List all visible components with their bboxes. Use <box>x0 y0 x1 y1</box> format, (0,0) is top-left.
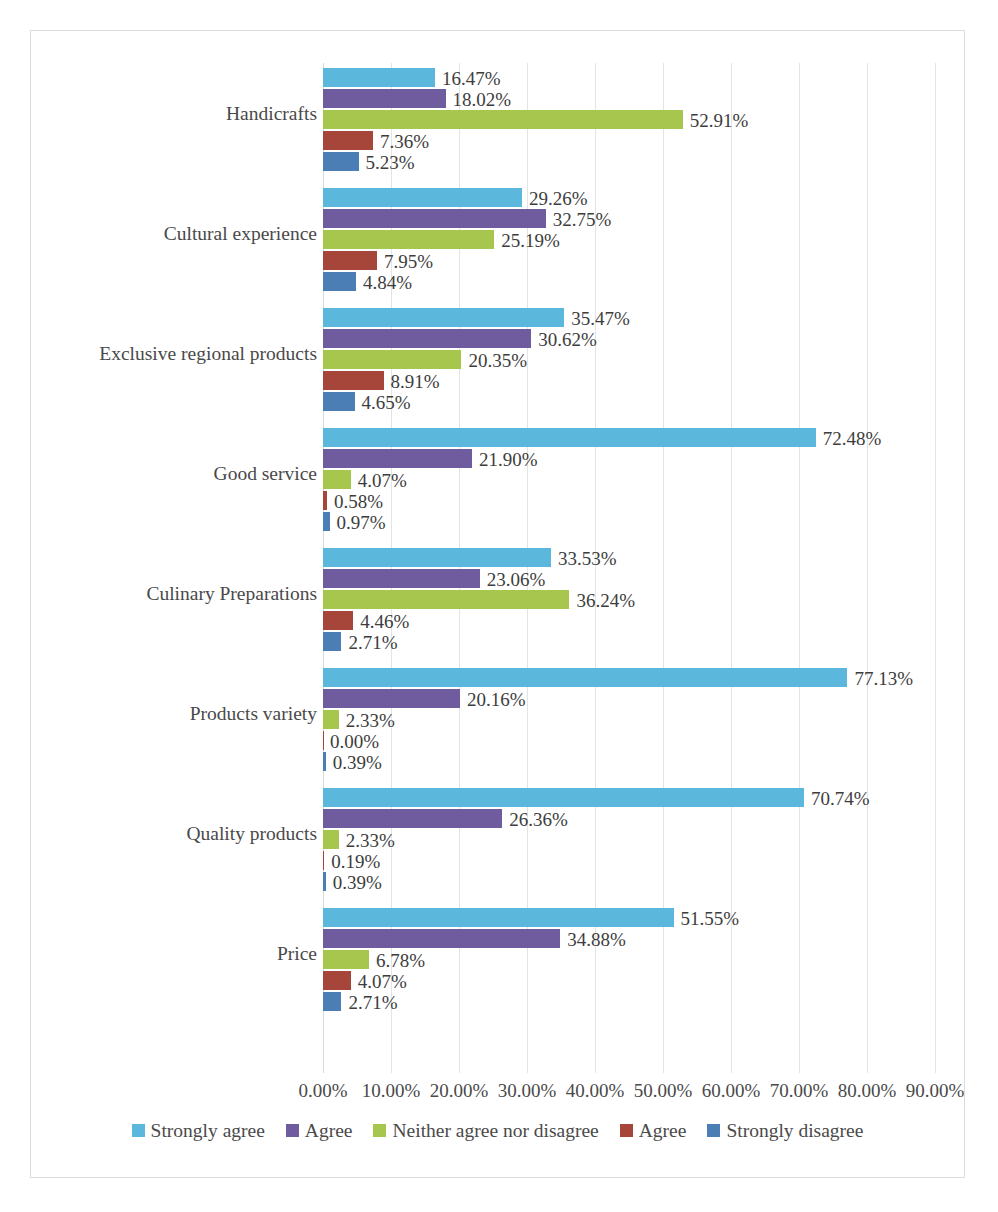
bar-row: 2.33% <box>323 830 935 849</box>
bar[interactable] <box>323 689 460 708</box>
legend-swatch-icon <box>132 1124 145 1137</box>
bar[interactable] <box>323 731 324 750</box>
legend-swatch-icon <box>707 1124 720 1137</box>
legend-label: Neither agree nor disagree <box>392 1121 598 1141</box>
bar[interactable] <box>323 929 560 948</box>
bar-row: 0.97% <box>323 512 935 531</box>
bar[interactable] <box>323 188 522 207</box>
x-tick-label: 80.00% <box>838 1081 897 1100</box>
bar[interactable] <box>323 851 324 870</box>
bar[interactable] <box>323 491 327 510</box>
x-tick-label: 30.00% <box>498 1081 557 1100</box>
bar-value-label: 0.97% <box>337 512 386 531</box>
bar-row: 4.84% <box>323 272 935 291</box>
bar[interactable] <box>323 89 446 108</box>
bar[interactable] <box>323 752 326 771</box>
bar[interactable] <box>323 830 339 849</box>
bar-value-label: 4.65% <box>362 392 411 411</box>
bar-row: 4.46% <box>323 611 935 630</box>
bar-value-label: 0.39% <box>333 872 382 891</box>
bar[interactable] <box>323 611 353 630</box>
bar-group: Products variety77.13%20.16%2.33%0.00%0.… <box>323 668 935 773</box>
bar-value-label: 0.58% <box>334 491 383 510</box>
bar[interactable] <box>323 308 564 327</box>
bar[interactable] <box>323 668 847 687</box>
bar[interactable] <box>323 569 480 588</box>
bar[interactable] <box>323 350 461 369</box>
bar[interactable] <box>323 908 674 927</box>
category-label: Handicrafts <box>47 104 317 124</box>
bar[interactable] <box>323 950 369 969</box>
bar-row: 20.35% <box>323 350 935 369</box>
bar-value-label: 70.74% <box>811 788 870 807</box>
bar-value-label: 5.23% <box>366 152 415 171</box>
bar-value-label: 26.36% <box>509 809 568 828</box>
bar-row: 35.47% <box>323 308 935 327</box>
x-tick-label: 10.00% <box>362 1081 421 1100</box>
bar[interactable] <box>323 209 546 228</box>
bar-value-label: 4.46% <box>360 611 409 630</box>
bar[interactable] <box>323 470 351 489</box>
bar[interactable] <box>323 872 326 891</box>
legend-item[interactable]: Strongly agree <box>132 1121 265 1141</box>
bar-row: 0.39% <box>323 752 935 771</box>
bar[interactable] <box>323 512 330 531</box>
bar-value-label: 2.33% <box>346 710 395 729</box>
category-label: Products variety <box>47 704 317 724</box>
bar-row: 16.47% <box>323 68 935 87</box>
legend-item[interactable]: Neither agree nor disagree <box>373 1121 598 1141</box>
bar[interactable] <box>323 251 377 270</box>
bar[interactable] <box>323 548 551 567</box>
bar[interactable] <box>323 131 373 150</box>
legend-item[interactable]: Strongly disagree <box>707 1121 863 1141</box>
bar[interactable] <box>323 809 502 828</box>
legend-item[interactable]: Agree <box>620 1121 687 1141</box>
bar-row: 4.07% <box>323 971 935 990</box>
x-tick-label: 50.00% <box>634 1081 693 1100</box>
bar[interactable] <box>323 449 472 468</box>
bar-row: 51.55% <box>323 908 935 927</box>
bar-value-label: 7.36% <box>380 131 429 150</box>
bar-value-label: 33.53% <box>558 548 617 567</box>
bar[interactable] <box>323 152 359 171</box>
bar-value-label: 2.33% <box>346 830 395 849</box>
bar-value-label: 20.16% <box>467 689 526 708</box>
bar-value-label: 23.06% <box>487 569 546 588</box>
x-tick-label: 0.00% <box>298 1081 347 1100</box>
bar[interactable] <box>323 272 356 291</box>
bar-row: 77.13% <box>323 668 935 687</box>
bar-row: 70.74% <box>323 788 935 807</box>
x-tick-label: 40.00% <box>566 1081 625 1100</box>
legend-swatch-icon <box>373 1124 386 1137</box>
bar-value-label: 4.84% <box>363 272 412 291</box>
bar[interactable] <box>323 971 351 990</box>
bar-value-label: 35.47% <box>571 308 630 327</box>
bar[interactable] <box>323 992 341 1011</box>
bar[interactable] <box>323 710 339 729</box>
bar[interactable] <box>323 68 435 87</box>
bar-row: 7.95% <box>323 251 935 270</box>
bar[interactable] <box>323 632 341 651</box>
bar[interactable] <box>323 230 494 249</box>
bar-value-label: 0.39% <box>333 752 382 771</box>
legend-item[interactable]: Agree <box>286 1121 353 1141</box>
bar-group: Quality products70.74%26.36%2.33%0.19%0.… <box>323 788 935 893</box>
bar[interactable] <box>323 590 569 609</box>
bar-value-label: 0.00% <box>330 731 379 750</box>
bar[interactable] <box>323 371 384 390</box>
bar-row: 30.62% <box>323 329 935 348</box>
chart-plot-area: Handicrafts16.47%18.02%52.91%7.36%5.23%C… <box>323 63 935 1073</box>
bar[interactable] <box>323 392 355 411</box>
bar-value-label: 29.26% <box>529 188 588 207</box>
bar-value-label: 8.91% <box>391 371 440 390</box>
bar-row: 34.88% <box>323 929 935 948</box>
category-label: Culinary Preparations <box>47 584 317 604</box>
bar-row: 72.48% <box>323 428 935 447</box>
bar[interactable] <box>323 428 816 447</box>
bar[interactable] <box>323 788 804 807</box>
bar[interactable] <box>323 110 683 129</box>
bar-row: 52.91% <box>323 110 935 129</box>
bar-row: 0.00% <box>323 731 935 750</box>
bar-value-label: 52.91% <box>690 110 749 129</box>
bar[interactable] <box>323 329 531 348</box>
